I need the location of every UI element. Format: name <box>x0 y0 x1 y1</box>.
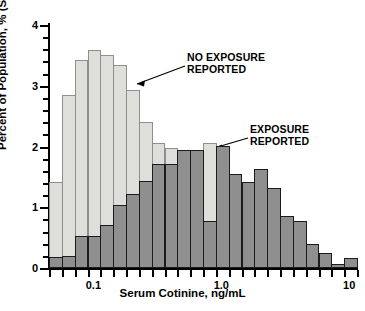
bar <box>306 244 320 268</box>
x-tick <box>357 270 359 277</box>
y-tick-label: 0 <box>32 263 38 274</box>
x-axis-title: Serum Cotinine, ng/mL <box>0 287 365 299</box>
y-tick-major <box>40 86 48 88</box>
y-tick-minor <box>43 256 48 258</box>
bar <box>331 264 345 268</box>
x-tick <box>139 270 141 277</box>
bar <box>113 205 127 268</box>
y-tick-major <box>40 207 48 209</box>
bar <box>177 150 191 268</box>
bar <box>152 164 166 268</box>
x-tick <box>344 270 346 277</box>
x-tick <box>62 270 64 277</box>
bar <box>190 150 204 268</box>
bar <box>229 174 243 268</box>
y-tick-minor <box>43 171 48 173</box>
y-tick-major <box>40 25 48 27</box>
y-tick-major <box>40 147 48 149</box>
x-tick <box>203 270 205 277</box>
bar <box>88 236 102 268</box>
y-tick-label: 4 <box>32 20 38 31</box>
x-tick <box>177 270 179 277</box>
y-tick-minor <box>43 183 48 185</box>
bar <box>319 253 333 268</box>
x-tick <box>49 270 51 277</box>
y-tick-minor <box>43 61 48 63</box>
bar <box>126 194 140 268</box>
histogram-chart: Percent of Population, % (Smokers + Nons… <box>0 0 365 311</box>
y-tick-minor <box>43 232 48 234</box>
bar <box>280 216 294 268</box>
bar <box>344 258 358 268</box>
x-tick <box>267 270 269 277</box>
bar <box>242 182 256 268</box>
x-tick <box>75 270 77 277</box>
bar <box>165 164 179 268</box>
y-tick-minor <box>43 122 48 124</box>
y-tick-minor <box>43 219 48 221</box>
x-tick <box>293 270 295 277</box>
annotation-exposure: EXPOSURE REPORTED <box>250 124 309 148</box>
bar <box>75 236 89 268</box>
x-tick <box>319 270 321 277</box>
y-tick-minor <box>43 110 48 112</box>
y-axis-title: Percent of Population, % (Smokers + Nons… <box>0 0 8 150</box>
x-tick <box>242 270 244 277</box>
x-tick <box>100 270 102 277</box>
y-tick-label: 1 <box>32 202 38 213</box>
y-tick-minor <box>43 98 48 100</box>
bar <box>139 181 153 268</box>
y-tick-major <box>40 268 48 270</box>
x-tick <box>126 270 128 277</box>
bar <box>88 50 102 268</box>
bar <box>62 95 76 268</box>
bar <box>49 182 63 268</box>
bar <box>216 146 230 268</box>
x-tick <box>280 270 282 277</box>
x-tick <box>88 270 90 277</box>
x-tick <box>331 270 333 277</box>
y-tick-minor <box>43 244 48 246</box>
y-tick-minor <box>43 49 48 51</box>
y-tick-label: 3 <box>32 80 38 91</box>
bar <box>49 257 63 268</box>
x-tick <box>306 270 308 277</box>
y-tick-minor <box>43 74 48 76</box>
bar <box>267 188 281 268</box>
y-tick-minor <box>43 134 48 136</box>
y-tick-minor <box>43 195 48 197</box>
bar <box>62 256 76 268</box>
x-tick <box>229 270 231 277</box>
x-tick <box>152 270 154 277</box>
x-tick <box>190 270 192 277</box>
x-tick <box>165 270 167 277</box>
y-tick-minor <box>43 37 48 39</box>
x-tick <box>216 270 218 277</box>
annotation-no-exposure: NO EXPOSURE REPORTED <box>187 52 265 76</box>
x-tick <box>254 270 256 277</box>
bar <box>254 169 268 268</box>
bar <box>100 225 114 268</box>
bar <box>203 221 217 268</box>
y-tick-minor <box>43 159 48 161</box>
x-tick <box>113 270 115 277</box>
y-tick-label: 2 <box>32 141 38 152</box>
bar <box>293 221 307 268</box>
